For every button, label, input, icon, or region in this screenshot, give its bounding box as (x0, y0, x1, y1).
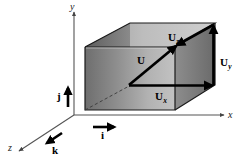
basis-k-arrow (47, 133, 62, 143)
vector-Uz-label: Uz (168, 32, 179, 43)
vector-decomposition-figure: y x z U Uz Uy Ux j i k (0, 0, 243, 165)
vector-Uy-symbol: U (220, 56, 228, 68)
z-axis (19, 115, 74, 151)
y-axis-label: y (70, 2, 74, 12)
figure-canvas (0, 0, 243, 165)
basis-i-label: i (101, 130, 104, 141)
vector-U-symbol: U (137, 54, 145, 66)
vector-Uy-label: Uy (220, 57, 231, 68)
vector-Ux-label: Ux (155, 91, 167, 102)
vector-Uy-subscript: y (228, 62, 231, 71)
vector-U-label: U (137, 55, 145, 66)
vector-Uz-symbol: U (168, 31, 176, 43)
x-axis-label: x (228, 110, 232, 120)
vector-Uz-subscript: z (176, 37, 179, 46)
basis-j-label: j (57, 91, 61, 102)
z-axis-label: z (8, 143, 12, 153)
vector-Ux-symbol: U (155, 90, 163, 102)
vector-Ux-subscript: x (163, 96, 167, 105)
basis-k-label: k (52, 145, 58, 156)
